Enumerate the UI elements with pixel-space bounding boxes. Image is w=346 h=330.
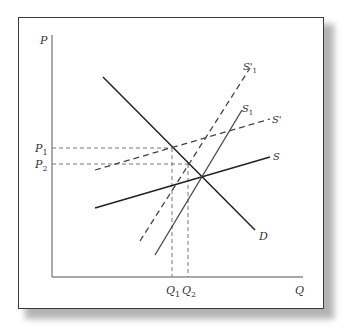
demand-label: D xyxy=(258,230,268,243)
p2-label: P2 xyxy=(34,158,48,173)
x-axis-label: Q xyxy=(295,284,304,297)
q2-label: Q2 xyxy=(182,284,196,299)
demand-curve xyxy=(103,77,255,230)
s1-prime-label: S'1 xyxy=(243,61,257,75)
supply-demand-diagram: P Q P1 P2 Q1 Q2 D S S' S1 S'1 xyxy=(0,0,346,330)
supply-curve-s1-prime xyxy=(140,68,250,241)
p1-label: P1 xyxy=(34,142,48,157)
supply-curve-s xyxy=(95,157,270,208)
supply-curve-s-prime xyxy=(95,119,270,170)
y-axis-label: P xyxy=(39,34,48,47)
s-prime-label: S' xyxy=(272,114,282,125)
supply-curve-s1 xyxy=(155,110,242,255)
s-label: S xyxy=(273,151,280,162)
q1-label: Q1 xyxy=(166,284,180,299)
s1-label: S1 xyxy=(242,103,253,117)
